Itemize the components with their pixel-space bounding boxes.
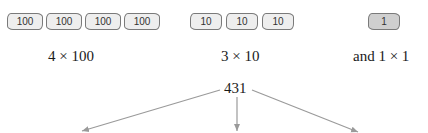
arrows <box>0 0 428 133</box>
arrow-left <box>82 90 220 131</box>
arrow-right <box>252 90 358 132</box>
